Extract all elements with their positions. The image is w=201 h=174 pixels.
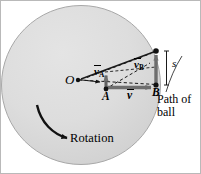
label-vector-vA: vA [94,65,104,79]
label-point-a: A [102,91,110,103]
path-of-ball-line2: ball [157,105,175,119]
point-dot-ball [153,48,159,54]
point-dot-O [76,78,80,82]
label-rotation: Rotation [70,131,114,146]
label-vector-vB: vB [134,58,144,72]
path-of-ball-line1: Path of [157,92,191,106]
diagram-canvas [1,1,201,174]
label-deflection-s: s [172,58,176,69]
label-point-o: O [65,73,74,86]
label-path-of-ball: Path of ball [157,93,201,119]
physics-diagram-figure: O A B vA vB v s Path of ball Rotation [0,0,201,174]
deflection-bracket [164,51,169,85]
label-vector-v: v [127,89,134,102]
